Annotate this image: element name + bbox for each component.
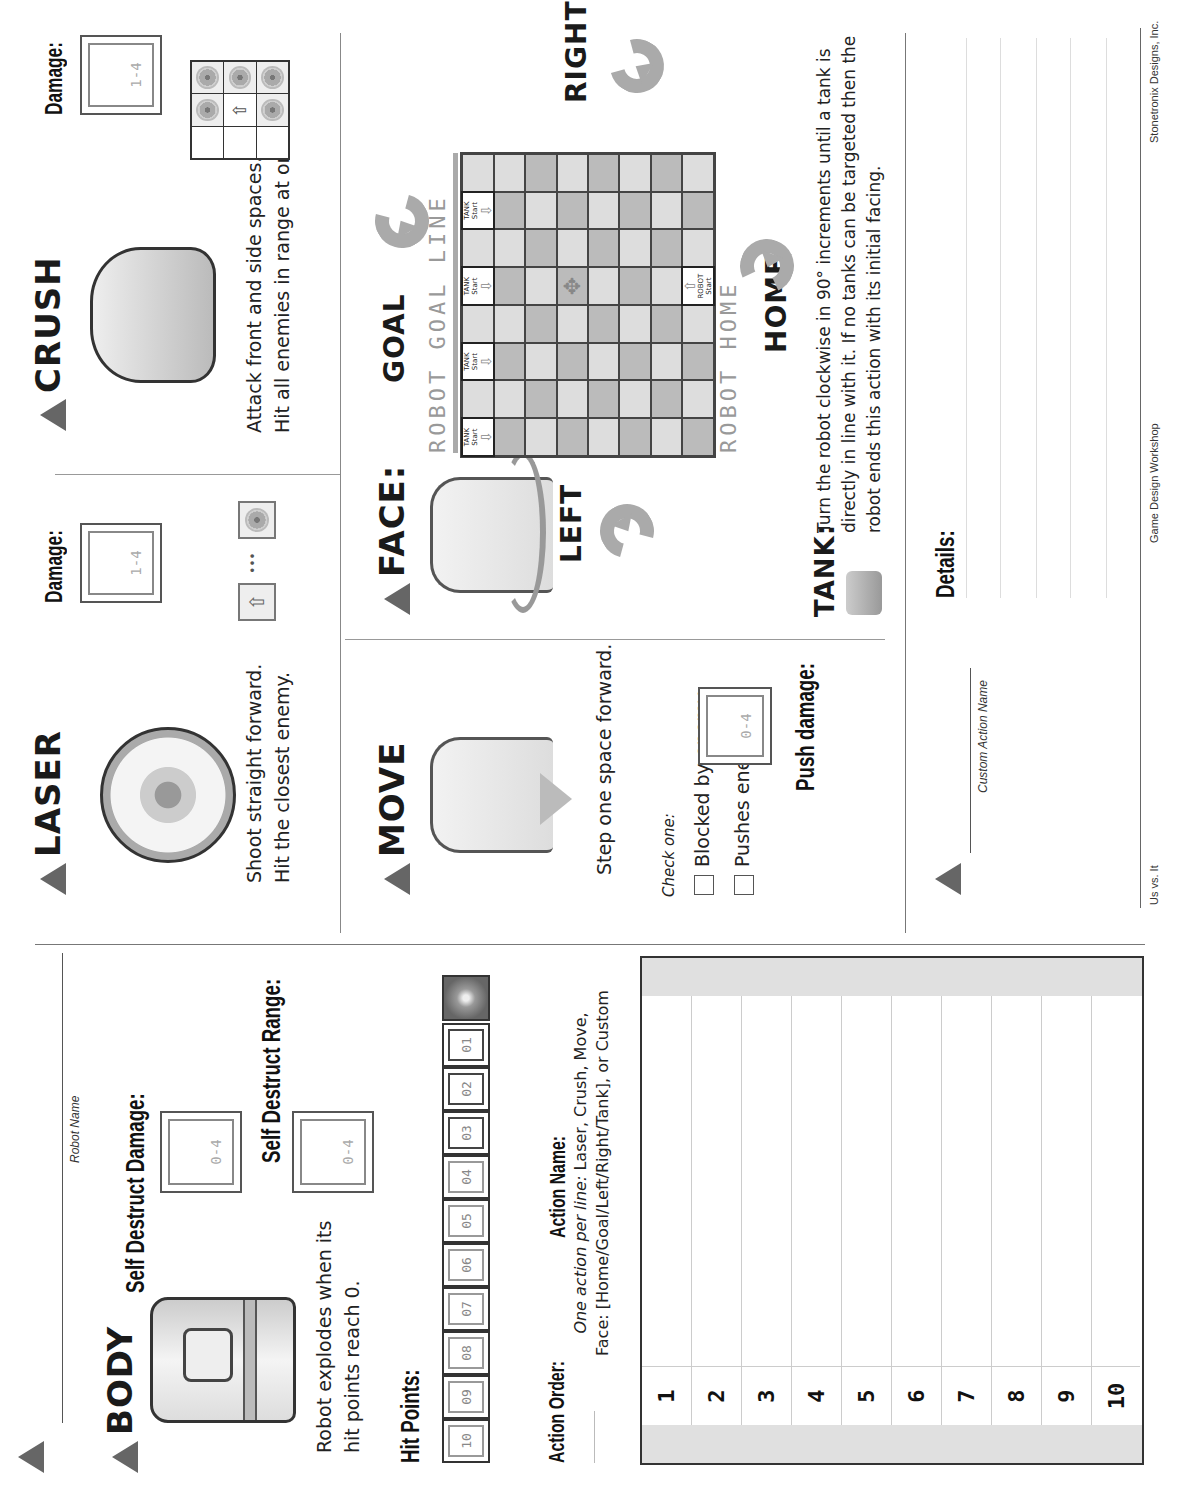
details-field[interactable] bbox=[960, 38, 1130, 598]
tank-start-cell: TANK Start⇩ bbox=[463, 268, 493, 304]
hp-box-07[interactable]: 07 bbox=[442, 1287, 490, 1331]
action-row[interactable]: 5 bbox=[842, 996, 892, 1425]
action-row[interactable]: 1 bbox=[642, 996, 692, 1425]
laser-damage-field[interactable]: 1-4 bbox=[80, 523, 162, 603]
hit-points-label: Hit Points: bbox=[395, 1369, 426, 1463]
hp-box-01[interactable]: 01 bbox=[442, 1023, 490, 1067]
crush-range-grid: ⇧ bbox=[190, 60, 290, 160]
tank-start-cell: TANK Start⇩ bbox=[463, 344, 493, 380]
laser-description: Shoot straight forward.Hit the closest e… bbox=[240, 603, 296, 883]
action-order-label: Action Order: bbox=[545, 1405, 569, 1463]
action-rows: 1 2 3 4 5 6 7 8 9 10 bbox=[642, 996, 1142, 1425]
sprocket-strip-right bbox=[642, 958, 1142, 996]
hit-points-track: 10 09 08 07 06 05 04 03 02 01 bbox=[442, 963, 490, 1463]
robot-arrow-icon: ⇧ bbox=[238, 583, 276, 621]
self-destruct-damage-label: Self Destruct Damage: bbox=[120, 1093, 151, 1293]
custom-action-name-label: Custom Action Name bbox=[976, 680, 990, 793]
range-hint: 1-4 bbox=[128, 37, 144, 113]
sprocket-strip-left bbox=[642, 1425, 1142, 1463]
action-row[interactable]: 6 bbox=[892, 996, 942, 1425]
section-divider bbox=[345, 639, 885, 640]
hp-box-10[interactable]: 10 bbox=[442, 1419, 490, 1463]
robot-name-label: Robot Name bbox=[68, 1096, 82, 1163]
push-damage-field[interactable]: 0-4 bbox=[698, 687, 772, 765]
robot-home-label: ROBOT HOME bbox=[716, 281, 741, 453]
goal-line-bar bbox=[453, 153, 458, 453]
blocked-by-enemy-checkbox[interactable] bbox=[694, 875, 714, 895]
action-row[interactable]: 10 bbox=[1092, 996, 1140, 1425]
section-marker-icon bbox=[40, 399, 66, 431]
action-row[interactable]: 8 bbox=[992, 996, 1042, 1425]
rotate-ring-icon bbox=[500, 451, 546, 613]
custom-action-name-line[interactable] bbox=[970, 668, 971, 853]
body-description: Robot explodes when its hit points reach… bbox=[310, 1193, 366, 1453]
explosion-icon bbox=[442, 975, 490, 1021]
push-damage-label: Push damage: bbox=[790, 663, 821, 791]
section-marker-icon bbox=[384, 863, 410, 895]
turn-right-icon bbox=[600, 29, 674, 103]
action-row[interactable]: 4 bbox=[792, 996, 842, 1425]
robot-legs-icon bbox=[430, 737, 553, 853]
section-marker-icon bbox=[18, 1441, 44, 1473]
action-row[interactable]: 7 bbox=[942, 996, 992, 1425]
face-right-label: RIGHT bbox=[560, 1, 593, 104]
panel-divider bbox=[35, 944, 1145, 945]
check-one-label: Check one: bbox=[660, 813, 678, 897]
tank-start-cell: TANK Start⇩ bbox=[463, 419, 493, 455]
section-marker-icon bbox=[384, 583, 410, 615]
action-row[interactable]: 9 bbox=[1042, 996, 1092, 1425]
self-destruct-damage-field[interactable]: 0-4 bbox=[160, 1111, 242, 1193]
enemy-icon bbox=[257, 62, 288, 93]
tank-description: Turn the robot clockwise in 90° incremen… bbox=[812, 13, 887, 533]
hp-box-08[interactable]: 08 bbox=[442, 1331, 490, 1375]
four-way-arrow-icon: ✥ bbox=[558, 268, 587, 304]
range-hint: 0-4 bbox=[738, 689, 754, 763]
hp-box-05[interactable]: 05 bbox=[442, 1199, 490, 1243]
face-title: FACE: bbox=[372, 465, 412, 577]
hp-box-04[interactable]: 04 bbox=[442, 1155, 490, 1199]
robot-name-line[interactable] bbox=[62, 953, 63, 1423]
laser-eye-icon bbox=[100, 727, 236, 863]
enemy-icon bbox=[224, 62, 255, 93]
tank-icon bbox=[846, 571, 882, 615]
details-label: Details: bbox=[930, 530, 961, 598]
hp-box-03[interactable]: 03 bbox=[442, 1111, 490, 1155]
enemy-icon bbox=[192, 62, 223, 93]
crush-damage-label: Damage: bbox=[40, 42, 68, 115]
crush-claw-icon bbox=[90, 247, 216, 383]
action-row[interactable]: 3 bbox=[742, 996, 792, 1425]
pushes-enemy-checkbox[interactable] bbox=[734, 875, 754, 895]
forward-arrow-icon bbox=[540, 773, 572, 825]
empty-cell bbox=[224, 127, 255, 158]
action-row[interactable]: 2 bbox=[692, 996, 742, 1425]
robot-arrow-icon: ⇧ bbox=[224, 94, 255, 125]
crush-title: CRUSH bbox=[28, 256, 68, 393]
empty-cell bbox=[257, 127, 288, 158]
range-hint: 1-4 bbox=[128, 525, 144, 601]
action-order-table: 1 2 3 4 5 6 7 8 9 10 bbox=[640, 956, 1144, 1465]
hp-box-02[interactable]: 02 bbox=[442, 1067, 490, 1111]
crush-damage-field[interactable]: 1-4 bbox=[80, 35, 162, 115]
section-divider bbox=[340, 33, 341, 933]
robot-body-icon bbox=[150, 1297, 296, 1423]
self-destruct-range-label: Self Destruct Range: bbox=[256, 979, 287, 1163]
self-destruct-range-field[interactable]: 0-4 bbox=[292, 1111, 374, 1193]
enemy-icon bbox=[192, 94, 223, 125]
enemy-icon bbox=[257, 94, 288, 125]
footer-rule bbox=[1140, 28, 1141, 908]
body-title: BODY bbox=[100, 1326, 140, 1435]
tank-start-cell: TANK Start⇩ bbox=[463, 193, 493, 229]
robot-program-sheet: Robot Name BODY Robot explodes when its … bbox=[0, 0, 1188, 1493]
range-ellipsis: ••• bbox=[246, 549, 260, 577]
hp-box-06[interactable]: 06 bbox=[442, 1243, 490, 1287]
face-left-label: LEFT bbox=[555, 484, 588, 563]
move-title: MOVE bbox=[372, 742, 412, 857]
footer-left: Us vs. It bbox=[1148, 865, 1160, 905]
section-marker-icon bbox=[40, 863, 66, 895]
tank-label: TANK: bbox=[810, 524, 840, 617]
move-description: Step one space forward. bbox=[590, 644, 618, 875]
divider bbox=[594, 1411, 595, 1463]
range-hint: 0-4 bbox=[340, 1113, 356, 1191]
footer-center: Game Design Workshop bbox=[1148, 423, 1160, 543]
hp-box-09[interactable]: 09 bbox=[442, 1375, 490, 1419]
